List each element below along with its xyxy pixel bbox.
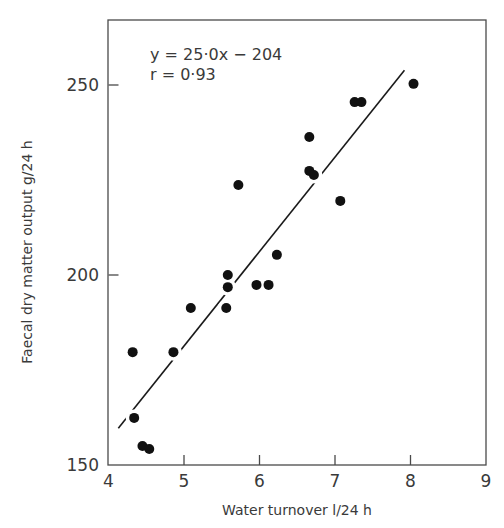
data-point [223, 282, 233, 292]
x-axis-label: Water turnover l/24 h [222, 502, 372, 518]
data-point [304, 132, 314, 142]
x-tick-label: 4 [103, 471, 114, 491]
data-point [264, 280, 274, 290]
data-point [144, 444, 154, 454]
y-tick-label: 200 [67, 265, 99, 285]
x-tick-label: 9 [481, 471, 492, 491]
equation-annotation: y = 25·0x − 204 [150, 45, 282, 64]
y-axis-label: Faecal dry matter output g/24 h [19, 140, 35, 363]
x-tick-label: 5 [179, 471, 190, 491]
data-point [251, 280, 261, 290]
scatter-chart: 456789 150200250 y = 25·0x − 204 r = 0·9… [0, 0, 504, 528]
data-point [272, 250, 282, 260]
data-point [309, 170, 319, 180]
correlation-annotation: r = 0·93 [150, 65, 216, 84]
data-point [221, 303, 231, 313]
data-point [168, 347, 178, 357]
data-point [356, 97, 366, 107]
x-tick-label: 6 [254, 471, 265, 491]
data-point [129, 413, 139, 423]
x-tick-label: 7 [330, 471, 341, 491]
x-tick-label: 8 [405, 471, 416, 491]
y-tick-label: 150 [67, 455, 99, 475]
data-point [128, 347, 138, 357]
data-point [233, 180, 243, 190]
data-point [186, 303, 196, 313]
data-point [223, 270, 233, 280]
y-tick-label: 250 [67, 75, 99, 95]
data-point [335, 196, 345, 206]
data-point [409, 79, 419, 89]
